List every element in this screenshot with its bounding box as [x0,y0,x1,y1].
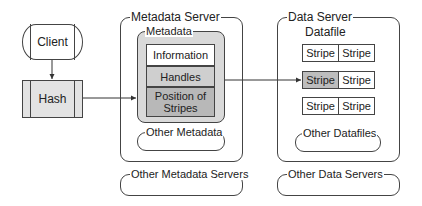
hash-label: Hash [23,81,82,117]
stripe-r3-c1: Stripe [302,97,339,115]
stripe-r2-c2: Stripe [338,71,375,89]
client-node: Client [22,24,83,60]
stripe-r2-c1-highlighted: Stripe [302,71,339,89]
other-metadata-servers-title: Other Metadata Servers [130,168,249,180]
hash-node: Hash [22,80,83,118]
client-label: Client [23,25,82,59]
stripe-r3-c2: Stripe [338,97,375,115]
metadata-field-position-of-stripes: Position of Stripes [146,87,215,117]
stripe-r1-c1: Stripe [302,44,339,62]
metadata-title: Metadata [145,25,193,37]
metadata-server-title: Metadata Server [130,11,221,23]
datafile-title: Datafile [304,26,347,38]
data-server-title: Data Server [287,11,353,23]
other-data-servers-title: Other Data Servers [287,168,384,180]
metadata-field-information: Information [146,44,215,66]
metadata-field-handles: Handles [146,66,215,87]
other-metadata-title: Other Metadata [145,126,223,138]
other-datafiles-title: Other Datafiles [302,127,377,139]
stripe-r1-c2: Stripe [338,44,375,62]
